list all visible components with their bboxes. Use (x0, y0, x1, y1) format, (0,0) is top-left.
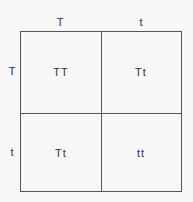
row-allele-1: T (6, 65, 18, 77)
cell-genotype: TT (21, 66, 101, 78)
grid-divider-vertical (101, 32, 102, 191)
column-allele-1: T (50, 16, 70, 28)
cell-genotype: Tt (21, 147, 101, 159)
column-allele-2: t (131, 16, 151, 28)
cell-genotype: tt (101, 147, 181, 159)
grid-divider-horizontal (21, 113, 181, 114)
row-allele-2: t (6, 146, 18, 158)
cell-genotype: Tt (101, 66, 181, 78)
square-grid: TT Tt Tt tt (20, 31, 182, 192)
